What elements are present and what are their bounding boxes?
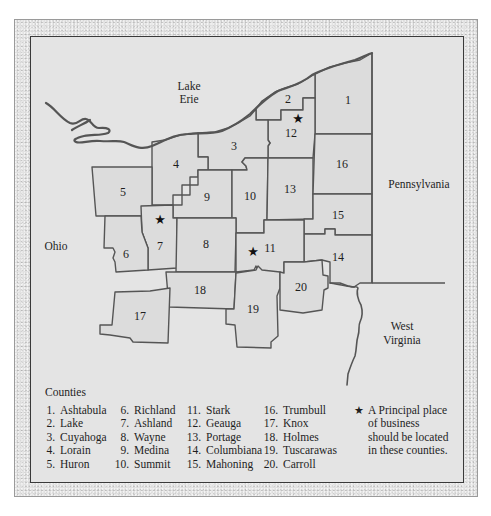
county-label-19: 19	[247, 302, 259, 316]
county-label-8: 8	[203, 237, 209, 251]
legend-item: 13.Portage	[185, 431, 262, 444]
legend-item: 2.Lake	[45, 417, 107, 430]
legend-title: Counties	[45, 386, 465, 399]
legend-item: 7.Ashland	[113, 417, 176, 430]
county-label-1: 1	[345, 93, 351, 107]
county-label-7: 7	[157, 239, 163, 253]
county-label-9: 9	[204, 190, 210, 204]
legend-item: 11.Stark	[185, 404, 262, 417]
ohio-label: Ohio	[45, 240, 68, 252]
county-6-richland	[104, 216, 148, 272]
county-label-3: 3	[231, 139, 237, 153]
lake-erie-label-line2: Erie	[179, 93, 198, 105]
legend-column-2: 6.Richland 7.Ashland 8.Wayne 9.Medina 10…	[113, 404, 176, 471]
legend-item: 8.Wayne	[113, 431, 176, 444]
west-virginia-label-line2: Virginia	[383, 334, 420, 347]
legend-item: 16.Trumbull	[262, 404, 337, 417]
county-label-15: 15	[332, 208, 344, 222]
legend-column-4: 16.Trumbull 17.Knox 18.Holmes 19.Tuscara…	[262, 404, 337, 471]
legend-item: 18.Holmes	[262, 431, 337, 444]
county-label-5: 5	[120, 185, 126, 199]
legend-item: 12.Geauga	[185, 417, 262, 430]
legend-note-text: A Principal place of business should be …	[368, 404, 478, 458]
county-1-ashtabula	[315, 53, 372, 134]
legend-item: 3.Cuyahoga	[45, 431, 107, 444]
legend-item: 10.Summit	[113, 458, 176, 471]
west-virginia-label-line1: West	[391, 320, 415, 332]
county-label-16: 16	[336, 157, 348, 171]
county-label-12: 12	[285, 126, 297, 140]
county-label-4: 4	[173, 157, 179, 171]
legend: Counties 1.Ashtabula 2.Lake 3.Cuyahoga 4…	[45, 386, 465, 405]
legend-item: 6.Richland	[113, 404, 176, 417]
legend-item: 20.Carroll	[262, 458, 337, 471]
legend-item: 15.Mahoning	[185, 458, 262, 471]
legend-item: 19.Tuscarawas	[262, 444, 337, 457]
star-icon-ashland: ★	[154, 212, 166, 227]
ohio-river	[330, 283, 362, 385]
county-label-17: 17	[134, 309, 146, 323]
county-label-10: 10	[244, 189, 256, 203]
county-label-20: 20	[295, 280, 307, 294]
legend-item: 4.Lorain	[45, 444, 107, 457]
legend-item: 17.Knox	[262, 417, 337, 430]
legend-column-3: 11.Stark 12.Geauga 13.Portage 14.Columbi…	[185, 404, 262, 471]
pennsylvania-label: Pennsylvania	[388, 178, 449, 191]
legend-item: 9.Medina	[113, 444, 176, 457]
county-label-14: 14	[332, 250, 344, 264]
lake-erie-label-line1: Lake	[178, 80, 201, 92]
star-icon-stark: ★	[247, 244, 259, 259]
star-icon: ★	[354, 404, 364, 417]
legend-item: 14.Columbiana	[185, 444, 262, 457]
county-label-2: 2	[285, 92, 291, 106]
county-label-18: 18	[194, 283, 206, 297]
county-label-11: 11	[264, 241, 276, 255]
star-icon-geauga: ★	[292, 111, 304, 126]
county-label-13: 13	[284, 182, 296, 196]
legend-item: 5.Huron	[45, 458, 107, 471]
county-label-6: 6	[123, 247, 129, 261]
legend-column-1: 1.Ashtabula 2.Lake 3.Cuyahoga 4.Lorain 5…	[45, 404, 107, 471]
legend-item: 1.Ashtabula	[45, 404, 107, 417]
